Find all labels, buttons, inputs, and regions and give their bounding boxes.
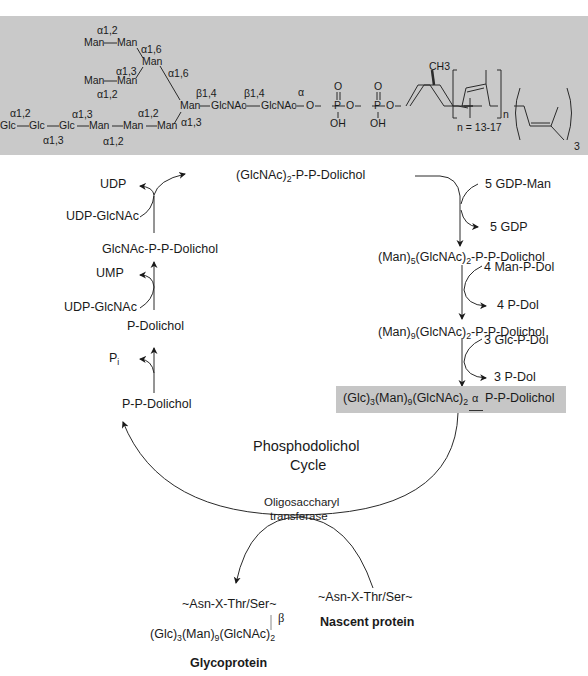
enzyme-label-line2: transferase <box>270 510 328 522</box>
glcnac2-pp-dolichol: (GlcNAc)2-P-P-Dolichol <box>236 168 365 182</box>
linkage-label: α1,6 <box>141 43 162 55</box>
glycoprotein-sequence: ~Asn-X-Thr/Ser~ <box>182 597 276 611</box>
nascent-sequence: ~Asn-X-Thr/Ser~ <box>318 590 412 604</box>
glycoprotein-label: Glycoprotein <box>190 656 267 670</box>
glc-p-dol-label: 3 Glc-P-Dol <box>484 333 549 347</box>
p-dol-3-label: 3 P-Dol <box>494 370 536 384</box>
gdp-man-label: 5 GDP-Man <box>485 177 551 191</box>
phosphorus-label: P <box>334 99 341 111</box>
oxygen-label: O <box>374 80 382 92</box>
repeat-range-label: n = 13-17 <box>457 121 502 133</box>
pi-label: Pi <box>109 351 119 365</box>
linkage-label: α <box>298 86 304 98</box>
sugar-man: Man <box>84 36 104 48</box>
pp-dolichol: P-P-Dolichol <box>122 397 191 411</box>
glycan-chain: (Glc)3(Man)9(GlcNAc)2 <box>150 627 275 641</box>
sugar-man: Man <box>123 119 143 131</box>
linkage-label: α1,3 <box>43 134 64 146</box>
linkage-label: α1,2 <box>10 107 31 119</box>
glcnac-pp-dolichol: GlcNAc-P-P-Dolichol <box>102 242 218 256</box>
p-dolichol: P-Dolichol <box>127 319 184 333</box>
sugar-man: Man <box>117 74 137 86</box>
beta-linkage: β <box>278 611 284 626</box>
sugar-man: Man <box>157 119 177 131</box>
oxygen-label: O <box>346 99 354 111</box>
sugar-man: Man <box>117 36 137 48</box>
linkage-label: α1,2 <box>97 88 118 100</box>
udp-glcnac-label: UDP-GlcNAc <box>66 209 139 223</box>
nascent-protein-label: Nascent protein <box>320 615 414 629</box>
phosphorus-label: P <box>374 99 381 111</box>
linkage-label: α1,3 <box>181 116 202 128</box>
sugar-glc: Glc <box>59 119 75 131</box>
udp-label: UDP <box>100 177 126 191</box>
linkage-label: α1,2 <box>138 107 159 119</box>
enzyme-label: Oligosaccharyl <box>264 496 339 508</box>
cycle-title-line2: Cycle <box>290 457 326 473</box>
gdp-label: 5 GDP <box>490 220 528 234</box>
oxygen-label: O <box>334 80 342 92</box>
sugar-man-core: Man <box>180 99 200 111</box>
methyl-label: CH3 <box>429 60 450 72</box>
glc3-man9-glcnac2-pp-dolichol: (Glc)3(Man)9(GlcNAc)2αP-P-Dolichol <box>343 391 555 405</box>
sugar-glc: Glc <box>0 119 16 131</box>
linkage-label: β1,4 <box>196 87 217 99</box>
oxygen-label: O <box>306 99 314 111</box>
sugar-glcnac: GlcNAc <box>261 99 297 111</box>
repeat-3-label: 3 <box>574 140 580 152</box>
hydroxyl-label: OH <box>370 117 386 129</box>
p-dol-4-label: 4 P-Dol <box>497 298 539 312</box>
linkage-label: α1,2 <box>97 24 118 36</box>
linkage-label: α1,6 <box>168 67 189 79</box>
linkage-label: β1,4 <box>244 87 265 99</box>
sugar-glcnac: GlcNAc <box>211 99 247 111</box>
sugar-man: Man <box>142 55 162 67</box>
ump-label: UMP <box>96 266 124 280</box>
repeat-n-label: n <box>503 108 509 120</box>
sugar-man: Man <box>84 74 104 86</box>
cycle-title: Phosphodolichol <box>253 438 359 454</box>
hydroxyl-label: OH <box>330 117 346 129</box>
man-p-dol-label: 4 Man-P-Dol <box>484 260 554 274</box>
oxygen-label: O <box>386 99 394 111</box>
udp-glcnac-label: UDP-GlcNAc <box>64 300 137 314</box>
sugar-glc: Glc <box>29 119 45 131</box>
sugar-man: Man <box>89 119 109 131</box>
linkage-label: α1,2 <box>103 135 124 147</box>
